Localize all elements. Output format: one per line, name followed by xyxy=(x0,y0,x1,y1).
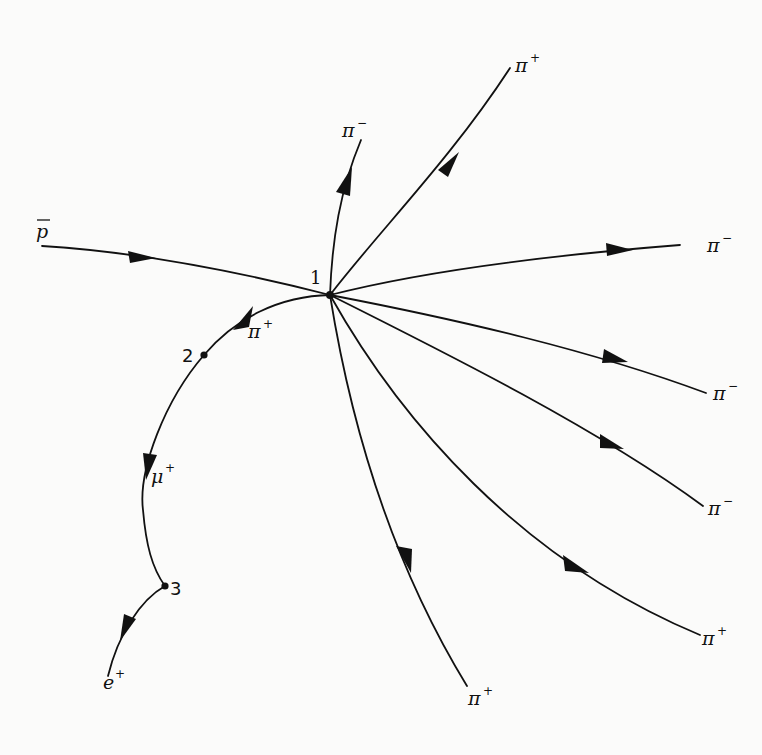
label-pi-plus-to-vertex-2: π + xyxy=(247,317,273,342)
svg-text:−: − xyxy=(723,494,733,508)
svg-text:μ: μ xyxy=(151,465,163,487)
vertex-2-label: 2 xyxy=(182,345,193,366)
svg-text:π: π xyxy=(341,119,355,141)
svg-text:e: e xyxy=(103,671,114,693)
label-pi-minus-right-2: π − xyxy=(712,379,738,404)
label-muon: μ + xyxy=(151,461,175,487)
svg-text:π: π xyxy=(706,234,720,256)
arrow-icon xyxy=(438,152,459,177)
svg-text:−: − xyxy=(728,379,738,393)
track-pi-minus-right-2 xyxy=(330,295,706,393)
svg-text:+: + xyxy=(717,624,727,638)
arrow-icon xyxy=(602,349,628,363)
svg-text:π: π xyxy=(712,382,726,404)
arrow-icon xyxy=(336,167,352,196)
vertex-1-label: 1 xyxy=(310,267,321,288)
vertex-3-dot xyxy=(161,582,168,589)
diagram-canvas: 1 2 3 p π − π + π − π − π − π + π + π + … xyxy=(0,0,762,755)
svg-text:+: + xyxy=(483,684,493,698)
arrow-icon xyxy=(563,555,589,573)
svg-text:π: π xyxy=(707,497,721,519)
arrow-icon xyxy=(606,243,633,256)
svg-text:π: π xyxy=(514,54,528,76)
arrow-icon xyxy=(396,546,412,573)
track-pi-minus-right-3 xyxy=(330,295,703,506)
track-pi-plus-up-right xyxy=(330,68,510,295)
svg-text:+: + xyxy=(263,317,273,331)
svg-text:+: + xyxy=(165,461,175,475)
particle-track-diagram: 1 2 3 p π − π + π − π − π − π + π + π + … xyxy=(0,0,762,755)
label-pi-plus-down: π + xyxy=(467,684,493,709)
arrow-icon xyxy=(128,251,156,263)
track-positron xyxy=(108,586,165,676)
label-pi-plus-lower-right: π + xyxy=(701,624,727,649)
arrow-icon xyxy=(600,434,624,449)
vertex-3-label: 3 xyxy=(170,578,181,599)
svg-text:π: π xyxy=(247,320,261,342)
svg-text:−: − xyxy=(357,116,367,130)
svg-text:π: π xyxy=(467,687,481,709)
label-pi-minus-right-3: π − xyxy=(707,494,733,519)
label-positron: e + xyxy=(103,667,125,693)
track-antiproton xyxy=(42,246,330,295)
svg-text:+: + xyxy=(530,51,540,65)
svg-text:−: − xyxy=(722,231,732,245)
track-pi-minus-right xyxy=(330,243,680,295)
svg-text:p: p xyxy=(36,220,48,242)
label-pi-minus-right: π − xyxy=(706,231,732,256)
vertex-1-dot xyxy=(326,291,334,299)
svg-text:π: π xyxy=(701,627,715,649)
label-pi-plus-up-right: π + xyxy=(514,51,540,76)
vertex-2-dot xyxy=(200,351,207,358)
label-pi-minus-up: π − xyxy=(341,116,367,141)
svg-text:+: + xyxy=(115,667,125,681)
track-pi-minus-up xyxy=(330,140,361,295)
label-antiproton: p xyxy=(36,220,50,242)
arrow-icon xyxy=(120,614,136,641)
